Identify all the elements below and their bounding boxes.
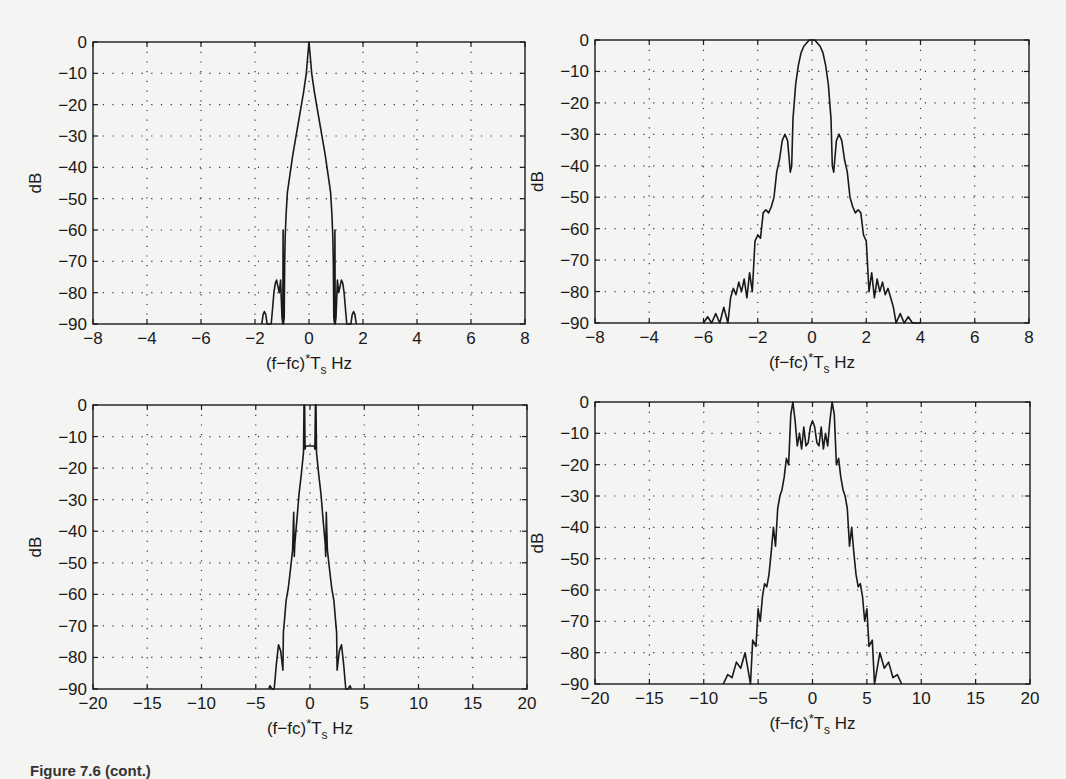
x-tick-label: −4 [137,329,156,348]
y-tick-label: −60 [58,585,87,604]
x-tick-label: 0 [807,328,816,347]
y-tick-label: −20 [560,94,589,113]
y-tick-label: −40 [58,522,87,541]
axes-frame [93,405,527,689]
y-tick-label: −50 [58,190,87,209]
y-tick-label: −40 [560,518,589,537]
x-tick-label: 10 [409,694,428,713]
y-tick-label: −40 [58,158,87,177]
y-tick-label: −20 [560,456,589,475]
y-tick-label: −60 [560,581,589,600]
x-tick-label: 2 [862,328,871,347]
x-tick-label: 8 [520,329,529,348]
x-tick-label: −5 [748,689,767,708]
x-tick-label: 0 [808,689,817,708]
x-tick-label: 5 [862,689,871,708]
x-tick-label: −6 [191,329,210,348]
x-tick-label: 2 [358,329,367,348]
x-axis-label: (f−fc)*Ts Hz [267,716,353,742]
axes-frame [93,42,525,324]
y-axis-label: dB [528,533,547,554]
x-tick-label: −10 [689,689,718,708]
y-tick-label: −50 [560,550,589,569]
x-tick-label: 0 [305,694,314,713]
y-tick-label: −70 [58,252,87,271]
x-tick-label: −10 [187,694,216,713]
y-tick-label: −70 [560,251,589,270]
x-tick-label: 4 [412,329,421,348]
chart-bottom-right: −20−15−10−5051015200−10−20−30−40−50−60−7… [528,393,1039,737]
y-tick-label: −20 [58,96,87,115]
x-axis-label: (f−fc)*Ts Hz [769,711,855,737]
y-tick-label: −30 [58,491,87,510]
x-tick-label: 8 [1024,328,1033,347]
y-tick-label: 0 [78,396,87,415]
x-tick-label: 5 [360,694,369,713]
spectrum-line [704,40,921,323]
x-tick-label: 15 [966,689,985,708]
y-tick-label: −80 [58,284,87,303]
y-tick-label: −90 [560,675,589,694]
y-axis-label: dB [26,173,45,194]
x-tick-label: 20 [1021,689,1040,708]
figure-caption: Figure 7.6 (cont.) [30,762,151,779]
spectrum-line [269,405,351,689]
y-tick-label: −70 [560,612,589,631]
spectrum-line [723,402,901,684]
x-axis-label: (f−fc)*Ts Hz [266,351,352,377]
y-tick-label: −10 [560,424,589,443]
axes-frame [595,402,1030,684]
y-tick-label: −20 [58,459,87,478]
y-tick-label: 0 [580,393,589,412]
y-tick-label: −80 [58,648,87,667]
x-tick-label: 10 [912,689,931,708]
y-tick-label: −30 [560,125,589,144]
y-axis-label: dB [26,537,45,558]
y-tick-label: −70 [58,617,87,636]
y-tick-label: −90 [58,315,87,334]
x-tick-label: −2 [245,329,264,348]
y-tick-label: −10 [58,64,87,83]
x-tick-label: −5 [246,694,265,713]
y-tick-label: −90 [58,680,87,699]
chart-bottom-left: −20−15−10−5051015200−10−20−30−40−50−60−7… [26,396,536,742]
y-tick-label: −10 [58,428,87,447]
y-tick-label: 0 [78,33,87,52]
y-tick-label: −30 [58,127,87,146]
x-tick-label: −15 [133,694,162,713]
y-tick-label: −80 [560,283,589,302]
y-tick-label: −50 [560,188,589,207]
chart-top-left: −8−4−6−2024680−10−20−30−40−50−60−70−80−9… [26,33,530,377]
x-tick-label: −2 [748,328,767,347]
y-tick-label: −30 [560,487,589,506]
y-tick-label: −40 [560,157,589,176]
grid [595,402,1030,684]
x-tick-label: −4 [640,328,659,347]
y-tick-label: 0 [580,31,589,50]
y-tick-label: −10 [560,62,589,81]
y-axis-label: dB [528,171,547,192]
x-tick-label: 15 [463,694,482,713]
grid [93,42,525,324]
y-tick-label: −90 [560,314,589,333]
x-tick-label: 6 [970,328,979,347]
x-tick-label: 4 [916,328,925,347]
x-tick-label: 6 [466,329,475,348]
y-tick-label: −60 [58,221,87,240]
y-tick-label: −50 [58,554,87,573]
x-axis-label: (f−fc)*Ts Hz [769,350,855,376]
spectrum-line [262,42,357,324]
axes-frame [595,40,1029,323]
chart-top-right: −8−4−6−2024680−10−20−30−40−50−60−70−80−9… [528,31,1034,376]
y-tick-label: −60 [560,220,589,239]
x-tick-label: −15 [635,689,664,708]
y-tick-label: −80 [560,644,589,663]
x-tick-label: 20 [518,694,537,713]
grid [595,40,1029,323]
grid [93,405,527,689]
x-tick-label: −6 [694,328,713,347]
x-tick-label: 0 [304,329,313,348]
